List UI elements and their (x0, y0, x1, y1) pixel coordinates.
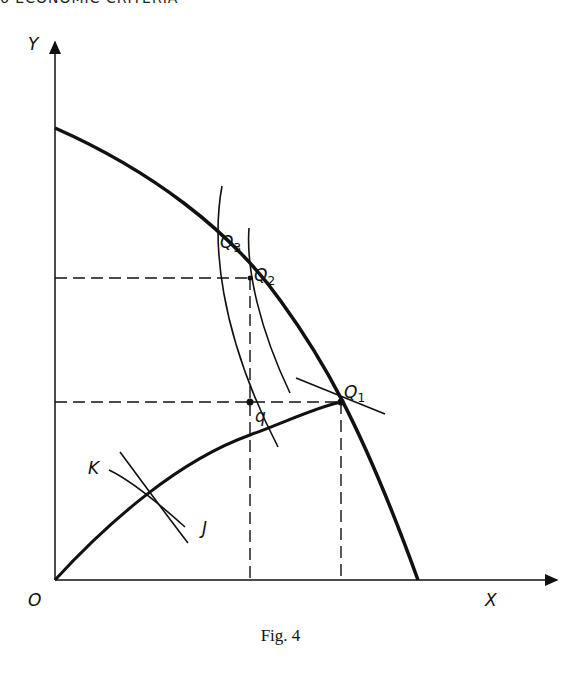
offer-curve (55, 402, 341, 580)
figure-caption: Fig. 4 (0, 626, 561, 646)
figure-diagram (0, 0, 561, 673)
label-j: J (202, 518, 207, 538)
point-q2 (248, 276, 253, 281)
origin-label: O (28, 590, 41, 610)
y-axis-label: Y (28, 34, 38, 54)
curve-k (109, 470, 185, 527)
label-q: q (255, 406, 266, 426)
curve-j (120, 452, 188, 543)
point-q (247, 399, 254, 406)
indifference-curve-q3 (218, 186, 278, 447)
label-q2: Q2 (254, 265, 275, 288)
label-k: K (88, 458, 99, 478)
production-frontier (55, 128, 418, 580)
x-axis-label: X (485, 590, 497, 610)
label-q3: Q3 (220, 232, 241, 255)
label-q1: Q1 (344, 382, 365, 405)
indifference-curve-q2 (249, 228, 290, 393)
